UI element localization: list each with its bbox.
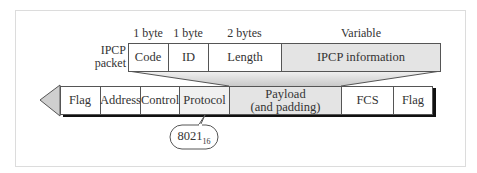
direction-arrow-icon [40,85,60,116]
size-label-info: Variable [281,26,441,41]
field-id: ID [168,44,208,71]
frame-field-flag-start: Flag [60,87,100,114]
size-label-id: 1 byte [168,26,208,41]
protocol-value-callout: 802116 [170,129,218,146]
frame-field-control: Control [140,87,179,114]
ipcp-label-line2: packet [88,57,126,70]
frame-field-protocol: Protocol [179,87,229,114]
field-length: Length [208,44,281,71]
ppp-frame-row: Flag Address Control Protocol Payload (a… [60,86,433,115]
field-code: Code [128,44,168,71]
frame-field-payload: Payload (and padding) [229,87,341,114]
ipcp-packet-label: IPCP packet [88,44,126,70]
frame-field-flag-end: Flag [393,87,432,114]
protocol-value-base: 16 [203,137,211,146]
frame-field-address: Address [100,87,140,114]
payload-label: Payload [265,88,305,101]
payload-sublabel: (and padding) [251,101,321,114]
size-label-length: 2 bytes [208,26,281,41]
frame-field-fcs: FCS [341,87,393,114]
protocol-value: 8021 [178,129,203,143]
ipcp-packet-row: Code ID Length IPCP information [128,43,441,72]
field-ipcp-information: IPCP information [281,44,440,71]
size-label-code: 1 byte [128,26,168,41]
